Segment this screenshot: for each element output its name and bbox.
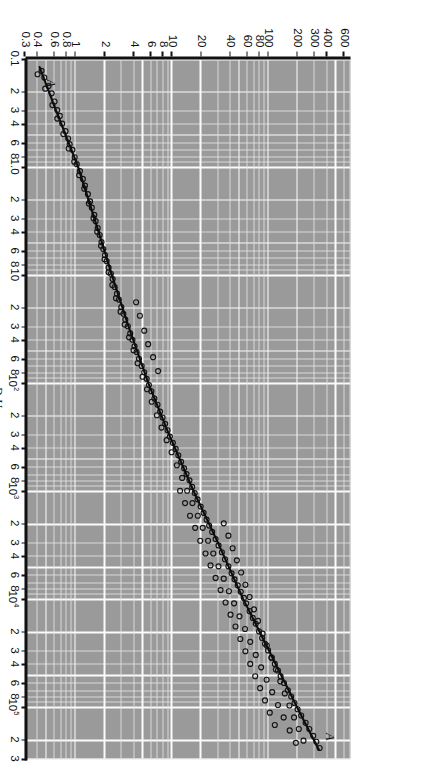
y-axis-tick xyxy=(325,51,327,56)
data-point xyxy=(169,449,174,454)
data-point xyxy=(223,599,228,604)
data-point xyxy=(221,576,226,581)
x-axis-tick-label: 6 xyxy=(8,355,20,361)
data-point xyxy=(149,399,154,404)
data-point xyxy=(251,606,256,611)
data-point xyxy=(296,726,301,731)
data-point xyxy=(236,613,241,618)
x-axis-tick-label: 3 xyxy=(8,539,20,545)
x-tick-exponent: 4 xyxy=(11,603,20,607)
data-point xyxy=(247,661,252,666)
data-point xyxy=(203,550,208,555)
data-point xyxy=(282,690,287,695)
x-axis-tick-label: 4 xyxy=(8,228,20,234)
x-axis-tick-label: 1.0 xyxy=(8,158,20,174)
x-axis-tick-label: 6 xyxy=(8,571,20,577)
y-axis-tick-label: 20 xyxy=(195,13,207,47)
y-axis-tick-label: 400 xyxy=(321,13,333,47)
data-point xyxy=(286,703,291,708)
x-axis-tick-label: 105 xyxy=(6,698,19,715)
data-point xyxy=(264,677,269,682)
y-axis-tick xyxy=(170,51,172,56)
y-axis-tick xyxy=(342,51,344,56)
x-tick-base: 10 xyxy=(6,698,18,711)
data-point xyxy=(230,545,235,550)
data-point xyxy=(253,652,258,657)
data-point xyxy=(300,738,305,743)
data-point xyxy=(232,623,237,628)
data-point xyxy=(197,538,202,543)
x-tick-exponent: 5 xyxy=(11,711,20,715)
data-point xyxy=(174,462,179,467)
x-axis-tick-label: 8 xyxy=(8,260,20,266)
data-point xyxy=(179,475,184,480)
data-point xyxy=(293,740,298,745)
y-axis-tick xyxy=(200,51,202,56)
x-axis-tick-label: 3 xyxy=(8,214,20,220)
data-point xyxy=(267,710,272,715)
x-axis-tick-label: 6 xyxy=(8,139,20,145)
data-point xyxy=(182,500,187,505)
data-point xyxy=(195,513,200,518)
data-point xyxy=(145,341,150,346)
y-axis-tick xyxy=(313,51,315,56)
y-axis-tick xyxy=(24,51,26,56)
data-point xyxy=(208,562,213,567)
data-point xyxy=(258,664,263,669)
data-point xyxy=(192,525,197,530)
data-point xyxy=(281,714,286,719)
y-axis-tick-label: 600 xyxy=(338,13,350,47)
data-point xyxy=(144,386,149,391)
data-point xyxy=(35,71,40,76)
x-axis-tick-label: 103 xyxy=(6,482,19,499)
data-point xyxy=(225,533,230,538)
data-point xyxy=(150,354,155,359)
data-point xyxy=(242,648,247,653)
x-axis-tick-label: 104 xyxy=(6,590,19,607)
data-point xyxy=(154,412,159,417)
data-point xyxy=(135,360,140,365)
x-axis-tick-label: 4 xyxy=(8,444,20,450)
x-axis-tick-label: 2 xyxy=(8,628,20,634)
x-num-main: D xyxy=(0,386,4,395)
figure-canvas: 0.1234681.023468102346810223468103234681… xyxy=(0,0,427,770)
x-axis-tick-label: 6 xyxy=(8,463,20,469)
data-point xyxy=(234,557,239,562)
y-axis-tick xyxy=(132,51,134,56)
data-point xyxy=(287,727,292,732)
data-point xyxy=(272,722,277,727)
x-tick-base: 10 xyxy=(6,482,18,495)
x-axis-tick-label: 10 xyxy=(8,268,20,281)
y-axis-tick xyxy=(65,51,67,56)
y-axis-tick-label: 10 xyxy=(166,13,178,47)
x-axis-tick-label: 0.1 xyxy=(8,50,20,66)
y-axis-tick-label: 1 xyxy=(70,13,82,47)
x-axis-tick-label: 2 xyxy=(8,412,20,418)
data-point xyxy=(218,587,223,592)
data-point xyxy=(205,538,210,543)
x-tick-exponent: 2 xyxy=(11,387,20,391)
y-axis-tick xyxy=(74,51,76,56)
data-point xyxy=(141,328,146,333)
x-tick-exponent: 3 xyxy=(11,495,20,499)
y-axis-tick-label: 300 xyxy=(309,13,321,47)
y-axis-tick-label: 6 xyxy=(145,13,157,47)
data-point xyxy=(242,582,247,587)
data-point xyxy=(137,313,142,318)
y-axis-tick-label: 40 xyxy=(224,13,236,47)
rotated-figure-stage: 0.1234681.023468102346810223468103234681… xyxy=(0,0,427,770)
ann-a-low: A xyxy=(42,79,57,86)
y-axis-tick-label: 4 xyxy=(128,13,140,47)
x-axis-tick-label: 2 xyxy=(8,303,20,309)
x-axis-tick-label: 3 xyxy=(8,647,20,653)
y-axis-tick-label: 0.4 xyxy=(31,13,43,47)
x-axis-tick-label: 4 xyxy=(8,552,20,558)
data-point xyxy=(237,636,242,641)
data-point xyxy=(213,575,218,580)
x-axis-tick-label: 4 xyxy=(8,336,20,342)
data-point xyxy=(231,600,236,605)
x-tick-base: 10 xyxy=(6,374,18,387)
data-point xyxy=(133,299,138,304)
y-axis-tick-label: 100 xyxy=(263,13,275,47)
data-point xyxy=(238,569,243,574)
